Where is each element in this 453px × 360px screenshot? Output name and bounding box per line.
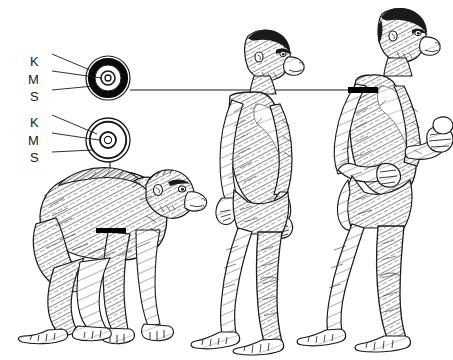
label-upper-S: S bbox=[30, 90, 39, 103]
ape-head bbox=[146, 169, 207, 218]
knuckle-walking-ape-figure bbox=[18, 168, 206, 344]
right-figure-humerus-bar bbox=[348, 87, 378, 93]
label-upper-M: M bbox=[28, 73, 39, 86]
thin-cortex-cross-section bbox=[52, 115, 130, 162]
hominid-head-middle bbox=[245, 30, 305, 81]
thick-cortex-cross-section bbox=[52, 54, 130, 100]
label-lower-K: K bbox=[30, 116, 39, 129]
label-lower-M: M bbox=[28, 134, 39, 147]
left-figure-humerus-bar bbox=[96, 228, 126, 233]
hominid-head-right bbox=[378, 8, 441, 62]
label-lower-S: S bbox=[30, 151, 39, 164]
illustration-canvas bbox=[0, 0, 453, 360]
early-hominid-bipedal-figure bbox=[191, 30, 304, 355]
label-upper-K: K bbox=[30, 55, 39, 68]
evolution-diagram: K M S K M S bbox=[0, 0, 453, 360]
later-hominid-bipedal-figure bbox=[297, 8, 453, 352]
